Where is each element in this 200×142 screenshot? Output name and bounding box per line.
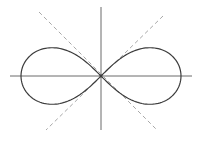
origin-point	[100, 75, 103, 78]
lemniscate-plot	[0, 0, 200, 142]
tangent-line-negative-slope	[39, 12, 157, 130]
lemniscate-figure	[0, 0, 200, 142]
